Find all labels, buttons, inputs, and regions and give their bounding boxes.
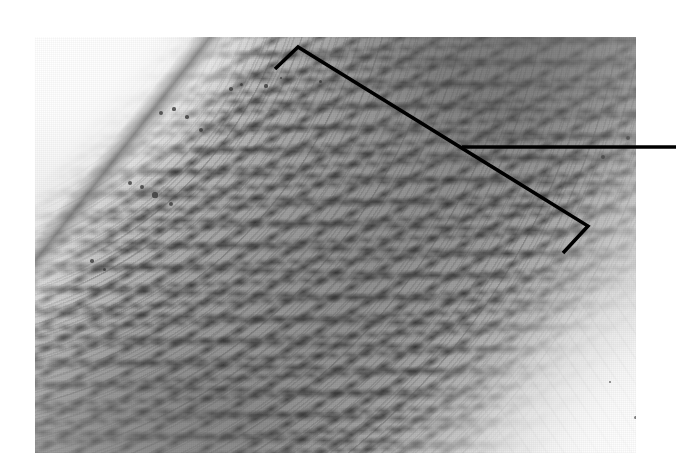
micrograph-figure bbox=[0, 0, 676, 474]
bracket-polyline bbox=[275, 47, 588, 253]
media-bracket-annotation bbox=[0, 0, 676, 474]
